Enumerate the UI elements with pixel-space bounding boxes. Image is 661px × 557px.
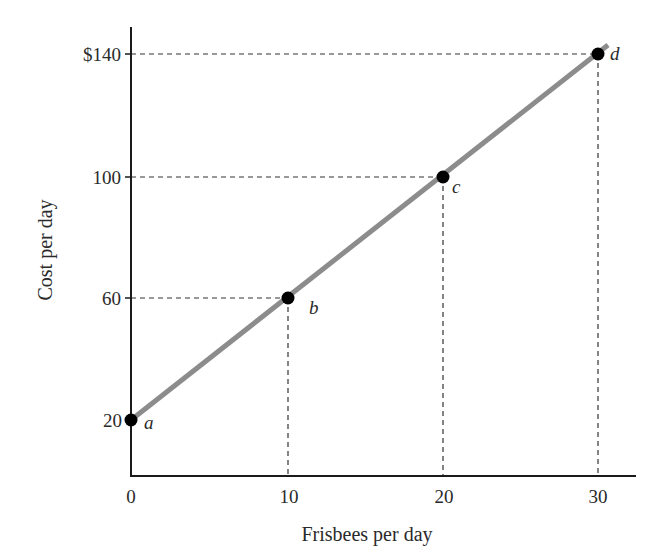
x-tick-label-20: 20 [435,486,454,507]
y-tick-label-140: $140 [83,44,121,65]
y-tick-label-60: 60 [102,288,121,309]
point-b [282,292,295,305]
point-d [592,48,605,61]
point-label-d: d [610,43,620,64]
point-a [125,414,138,427]
y-axis-title: Cost per day [34,199,57,300]
guide-lines [131,54,598,476]
y-tick-label-20: 20 [103,410,122,431]
x-axis-title: Frisbees per day [301,523,432,546]
cost-chart: a b c d $140 100 60 20 0 10 20 30 Frisbe… [0,0,661,557]
point-label-c: c [452,176,461,197]
cost-line [131,45,608,420]
y-tick-label-100: 100 [93,167,122,188]
point-label-b: b [309,297,319,318]
point-c [437,171,450,184]
x-tick-label-10: 10 [280,486,299,507]
x-tick-label-0: 0 [126,486,136,507]
point-label-a: a [144,412,154,433]
x-tick-label-30: 30 [589,486,608,507]
